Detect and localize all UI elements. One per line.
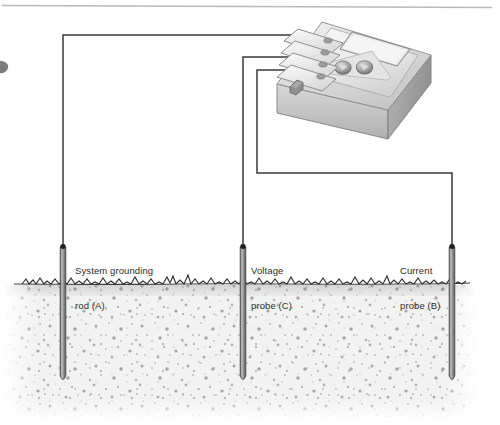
label-current-probe-line1: Current [400, 265, 441, 277]
label-voltage-probe: Voltage probe (C) [251, 242, 292, 334]
label-system-grounding-rod-line2: rod (A) [75, 300, 153, 312]
label-system-grounding-rod: System grounding rod (A) [75, 242, 153, 334]
diagram-canvas: System grounding rod (A) Voltage probe (… [0, 0, 500, 425]
terminal-es-socket [321, 50, 329, 55]
label-current-probe: Current probe (B) [400, 242, 441, 334]
label-voltage-probe-line1: Voltage [251, 265, 292, 277]
label-system-grounding-rod-line1: System grounding [75, 265, 153, 277]
label-current-probe-line2: probe (B) [400, 300, 441, 312]
terminal-s-socket [319, 62, 327, 67]
terminal-e-socket [324, 38, 332, 43]
ground-resistance-tester[interactable] [0, 0, 500, 425]
label-voltage-probe-line2: probe (C) [251, 300, 292, 312]
terminal-h-socket [317, 74, 325, 79]
